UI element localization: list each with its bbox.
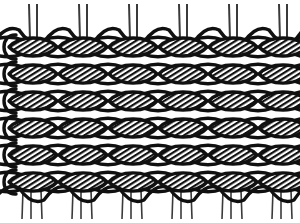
mesh-diagram-figure: Knitted mesh fabric structure Technical …	[0, 0, 300, 223]
hatched-loop	[109, 65, 157, 83]
hatched-loop	[259, 65, 300, 83]
mesh-row-3	[0, 91, 300, 110]
hatched-loop	[9, 146, 57, 164]
hatched-loop	[9, 119, 57, 137]
mesh-structure-drawing	[0, 0, 300, 223]
hatched-loop	[209, 146, 257, 164]
hatched-loop	[209, 119, 257, 137]
hatched-loop	[9, 38, 57, 56]
mesh-row-1	[0, 37, 300, 56]
hatched-loop	[59, 65, 107, 83]
mesh-row-4	[0, 118, 300, 137]
hatched-loop	[109, 146, 157, 164]
hatched-loop	[159, 65, 207, 83]
hatched-loop	[159, 119, 207, 137]
hatched-loop	[59, 92, 107, 110]
hatched-loop	[109, 119, 157, 137]
hatched-loop	[209, 38, 257, 56]
hatched-loop	[9, 65, 57, 83]
hatched-loop	[59, 38, 107, 56]
hatched-loop	[159, 146, 207, 164]
mesh-row-2	[0, 64, 300, 83]
hatched-loop	[259, 119, 300, 137]
hatched-loop	[259, 38, 300, 56]
hatched-loop	[159, 92, 207, 110]
hatched-loop	[59, 146, 107, 164]
hatched-loop	[59, 119, 107, 137]
hatched-loop	[109, 92, 157, 110]
hatched-loop	[209, 92, 257, 110]
hatched-loop	[209, 65, 257, 83]
hatched-loop	[259, 146, 300, 164]
mesh-row-5	[0, 145, 300, 164]
hatched-loop	[259, 92, 300, 110]
hatched-loop	[9, 92, 57, 110]
hatched-loop	[109, 38, 157, 56]
hatched-loop	[159, 38, 207, 56]
